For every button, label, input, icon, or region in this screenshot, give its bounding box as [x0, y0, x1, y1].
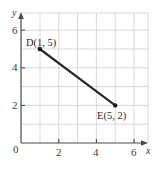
x-tick-label-4: 4 [93, 147, 99, 158]
plot-canvas [0, 0, 158, 169]
point-e-label: E(5, 2) [97, 111, 126, 122]
point-e-marker [113, 103, 117, 107]
coordinate-plane-figure: y x 0 2 4 6 2 4 6 D(1, 5) E(5, 2) [0, 0, 158, 169]
y-tick-label-4: 4 [12, 62, 18, 73]
x-axis-label: x [146, 146, 150, 156]
x-tick-label-6: 6 [131, 147, 137, 158]
point-d-label: D(1, 5) [26, 38, 56, 49]
y-tick-label-6: 6 [12, 25, 18, 36]
x-tick-label-2: 2 [56, 147, 62, 158]
origin-tick-label: 0 [13, 144, 19, 155]
y-tick-label-2: 2 [12, 100, 18, 111]
grid-vertical-lines [40, 13, 148, 143]
y-axis-label: y [12, 8, 16, 18]
